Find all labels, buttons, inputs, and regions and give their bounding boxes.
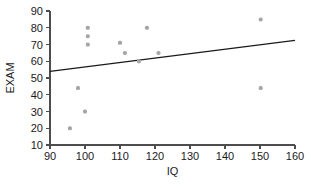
data-point <box>86 26 90 30</box>
y-axis-title: EXAM <box>4 62 16 93</box>
data-point <box>259 86 263 90</box>
data-point <box>118 41 122 45</box>
plot-canvas: 102030405060708090 901001101201301401501… <box>0 0 311 188</box>
x-tick-label: 150 <box>251 150 269 162</box>
x-tick-label: 90 <box>44 150 56 162</box>
data-point <box>86 34 90 38</box>
y-tick-label: 30 <box>31 106 43 118</box>
data-point <box>76 86 80 90</box>
y-tick-label: 80 <box>31 22 43 34</box>
x-tick-label: 160 <box>286 150 304 162</box>
axis-tick-marks <box>46 11 295 149</box>
x-tick-label: 100 <box>76 150 94 162</box>
y-tick-label: 20 <box>31 122 43 134</box>
y-tick-label: 50 <box>31 72 43 84</box>
data-point <box>83 110 87 114</box>
x-tick-label: 130 <box>181 150 199 162</box>
x-axis-title: IQ <box>167 165 179 177</box>
y-tick-label: 60 <box>31 55 43 67</box>
y-tick-label: 70 <box>31 39 43 51</box>
y-tick-label: 10 <box>31 139 43 151</box>
data-point <box>259 17 263 21</box>
y-tick-label: 90 <box>31 5 43 17</box>
x-tick-label: 140 <box>216 150 234 162</box>
data-point <box>123 51 127 55</box>
y-axis-tick-labels: 102030405060708090 <box>31 5 43 151</box>
data-point <box>137 59 141 63</box>
scatter-plot-figure: 102030405060708090 901001101201301401501… <box>0 0 311 188</box>
data-points <box>68 17 263 130</box>
data-point <box>86 43 90 47</box>
data-point <box>68 126 72 130</box>
x-tick-label: 110 <box>111 150 129 162</box>
data-point <box>157 51 161 55</box>
y-tick-label: 40 <box>31 89 43 101</box>
x-axis-tick-labels: 90100110120130140150160 <box>44 150 304 162</box>
axis-lines <box>50 11 295 145</box>
data-point <box>145 26 149 30</box>
x-tick-label: 120 <box>146 150 164 162</box>
